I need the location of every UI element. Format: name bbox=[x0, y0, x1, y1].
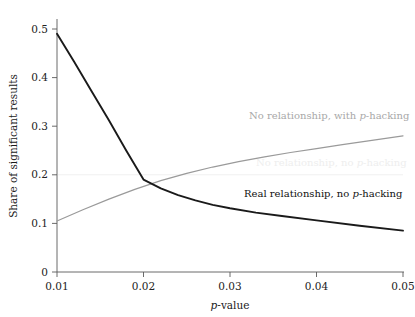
x-tick-label: 0.03 bbox=[218, 280, 241, 292]
label-no-relationship-no-p-hacking: No relationship, no p-hacking bbox=[256, 157, 407, 168]
y-tick-label: 0.1 bbox=[31, 217, 48, 229]
series-real-relationship-no-p-hacking bbox=[57, 34, 403, 231]
line-chart: 0 0.1 0.2 0.3 0.4 0.5 0.01 0.02 0.03 0.0… bbox=[0, 0, 415, 317]
y-tick-label: 0 bbox=[41, 266, 48, 278]
annotation-text-after: -hacking bbox=[363, 157, 407, 168]
annotation-text-after: -hacking bbox=[359, 188, 403, 199]
y-axis-tick-labels: 0 0.1 0.2 0.3 0.4 0.5 bbox=[31, 23, 48, 278]
annotation-text-before: Real relationship, no bbox=[244, 188, 353, 199]
y-axis-title: Share of significant results bbox=[7, 74, 19, 218]
x-axis-title: p-value bbox=[211, 299, 250, 311]
x-axis-title-rest: -value bbox=[217, 299, 249, 311]
x-axis-ticks bbox=[57, 272, 403, 277]
x-tick-label: 0.05 bbox=[391, 280, 414, 292]
label-no-relationship-with-p-hacking: No relationship, with p-hacking bbox=[249, 110, 410, 121]
x-tick-label: 0.01 bbox=[45, 280, 68, 292]
label-real-relationship-no-p-hacking: Real relationship, no p-hacking bbox=[244, 188, 403, 199]
x-tick-label: 0.02 bbox=[132, 280, 155, 292]
y-axis-ticks bbox=[52, 29, 57, 272]
annotation-text-before: No relationship, with bbox=[249, 110, 359, 121]
y-tick-label: 0.2 bbox=[31, 168, 48, 180]
y-tick-label: 0.3 bbox=[31, 120, 48, 132]
annotation-text-after: -hacking bbox=[366, 110, 410, 121]
annotation-text-before: No relationship, no bbox=[256, 157, 357, 168]
x-axis-tick-labels: 0.01 0.02 0.03 0.04 0.05 bbox=[45, 280, 414, 292]
x-tick-label: 0.04 bbox=[305, 280, 329, 292]
y-tick-label: 0.4 bbox=[31, 71, 48, 83]
y-tick-label: 0.5 bbox=[31, 23, 48, 35]
chart-figure: 0 0.1 0.2 0.3 0.4 0.5 0.01 0.02 0.03 0.0… bbox=[0, 0, 415, 317]
